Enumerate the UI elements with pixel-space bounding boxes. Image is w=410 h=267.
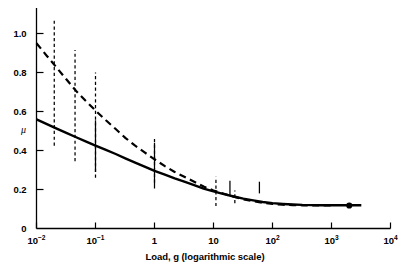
axes	[37, 8, 391, 229]
curve-lower-solid-curve	[37, 119, 362, 205]
x-tick-mantissa: 10	[208, 235, 219, 246]
y-axis-title: μ	[21, 124, 26, 135]
x-tick-mantissa: 1	[152, 235, 157, 246]
x-tick-label: 10−2	[15, 235, 59, 246]
data-points	[346, 202, 352, 208]
y-tick-label: 0.4	[0, 145, 27, 156]
x-tick-label: 102	[251, 235, 295, 246]
y-tick-label: 0	[0, 223, 27, 234]
chart-plot-area	[0, 0, 410, 267]
x-tick-exponent: −1	[97, 233, 105, 240]
x-tick-label: 103	[310, 235, 354, 246]
error-bars	[54, 18, 259, 206]
x-tick-exponent: −2	[38, 233, 46, 240]
tick-marks	[37, 34, 391, 229]
chart-figure: 00.20.40.60.81.0 10−210−1110102103104 μ …	[0, 0, 410, 267]
x-axis-title: Load, g (logarithmic scale)	[0, 251, 410, 262]
x-tick-label: 104	[369, 235, 410, 246]
x-tick-exponent: 4	[394, 233, 398, 240]
x-tick-mantissa: 10	[324, 235, 335, 246]
y-tick-label: 1.0	[0, 28, 27, 39]
data-point-0	[346, 202, 352, 208]
x-tick-label: 10	[192, 235, 236, 246]
x-tick-mantissa: 10	[86, 235, 97, 246]
x-tick-label: 10−1	[74, 235, 118, 246]
y-tick-label: 0.8	[0, 67, 27, 78]
data-curves	[37, 43, 362, 205]
y-tick-label: 0.6	[0, 106, 27, 117]
x-tick-mantissa: 10	[265, 235, 276, 246]
x-tick-label: 1	[133, 235, 177, 246]
y-tick-label: 0.2	[0, 184, 27, 195]
x-tick-mantissa: 10	[27, 235, 38, 246]
x-tick-exponent: 3	[335, 233, 339, 240]
x-tick-mantissa: 10	[383, 235, 394, 246]
x-tick-exponent: 2	[276, 233, 280, 240]
